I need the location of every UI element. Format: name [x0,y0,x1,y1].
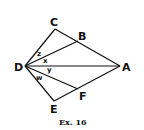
figure-caption: Ex. 16 [59,117,87,127]
segment-DB [25,41,78,66]
point-label-F: F [79,90,87,103]
point-label-A: A [122,61,131,74]
angle-label-z: z [37,50,41,58]
point-label-B: B [78,30,86,43]
angle-label-x: x [43,57,48,65]
geometry-diagram: C B D A E F z x y w Ex. 16 [0,0,144,130]
point-label-D: D [14,61,23,74]
point-label-C: C [50,16,58,29]
angle-label-w: w [36,74,43,82]
segment-DC [25,29,55,66]
point-label-E: E [50,103,58,116]
angle-label-y: y [47,66,52,74]
